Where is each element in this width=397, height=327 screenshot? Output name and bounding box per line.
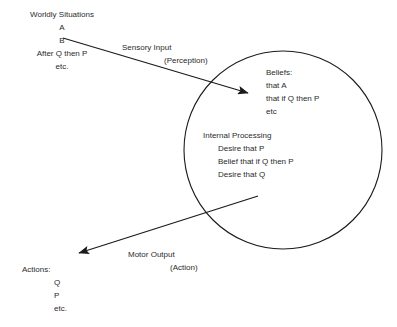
worldly-situations-item-2: After Q then P [8,47,116,60]
internal-processing-item-2: Desire that Q [203,168,294,181]
actions-item-2: etc. [22,302,67,315]
diagram-canvas: Worldly Situations A B After Q then P et… [0,0,397,327]
motor-output-title: Motor Output [128,248,198,261]
internal-processing-item-1: Belief that if Q then P [203,155,294,168]
internal-processing-heading: Internal Processing [203,129,294,142]
worldly-situations-item-3: etc. [8,60,116,73]
sensory-input-title: Sensory Input [122,41,208,54]
beliefs-heading: Beliefs: [266,66,319,79]
internal-processing-item-0: Desire that P [203,142,294,155]
motor-output-label: Motor Output (Action) [128,248,198,274]
beliefs-item-2: etc [266,105,319,118]
beliefs-block: Beliefs: that A that if Q then P etc [266,66,319,118]
worldly-situations-item-1: B [8,34,116,47]
worldly-situations-heading: Worldly Situations [8,8,116,21]
actions-heading: Actions: [22,263,67,276]
internal-processing-block: Internal Processing Desire that P Belief… [203,129,294,181]
sensory-input-label: Sensory Input (Perception) [122,41,208,67]
beliefs-item-0: that A [266,79,319,92]
worldly-situations-block: Worldly Situations A B After Q then P et… [8,8,116,73]
actions-item-1: P [22,289,67,302]
motor-output-sublabel: (Action) [128,261,198,274]
worldly-situations-item-0: A [8,21,116,34]
actions-block: Actions: Q P etc. [22,263,67,315]
sensory-input-sublabel: (Perception) [122,54,208,67]
actions-item-0: Q [22,276,67,289]
beliefs-item-1: that if Q then P [266,92,319,105]
